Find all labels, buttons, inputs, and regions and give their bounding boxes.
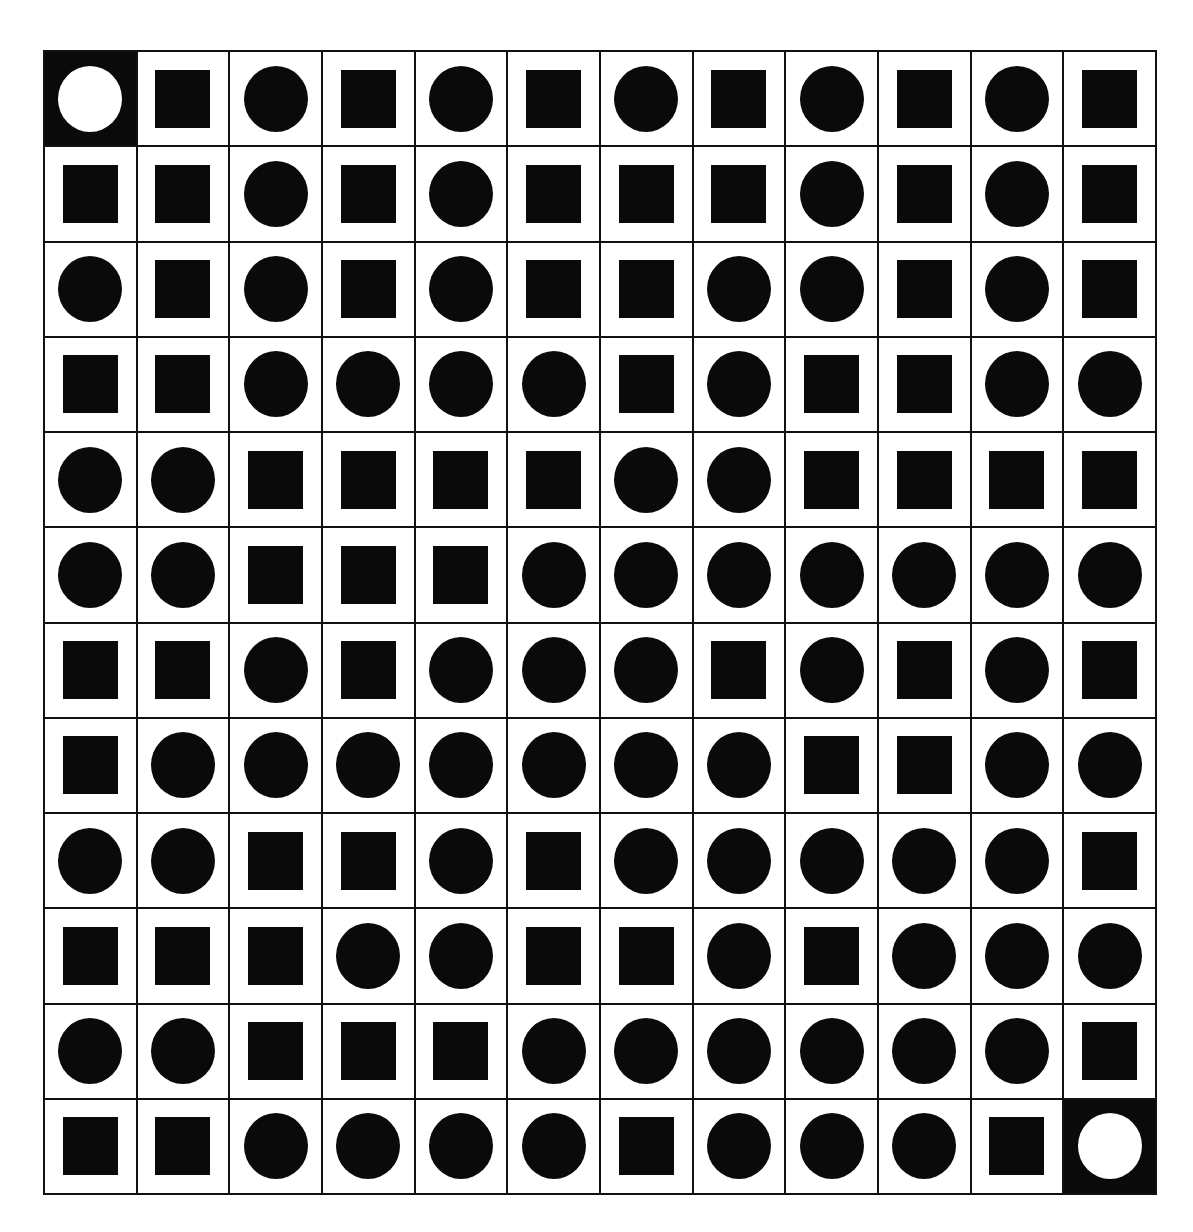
grid-cell[interactable] bbox=[416, 1005, 507, 1098]
grid-cell[interactable] bbox=[879, 243, 970, 336]
grid-cell[interactable] bbox=[508, 624, 599, 717]
grid-cell[interactable] bbox=[416, 52, 507, 145]
grid-cell[interactable] bbox=[138, 624, 229, 717]
grid-cell[interactable] bbox=[601, 719, 692, 812]
grid-cell[interactable] bbox=[601, 338, 692, 431]
grid-cell[interactable] bbox=[972, 338, 1063, 431]
grid-cell[interactable] bbox=[230, 909, 321, 1002]
grid-cell[interactable] bbox=[138, 433, 229, 526]
grid-cell[interactable] bbox=[508, 528, 599, 621]
grid-cell[interactable] bbox=[786, 624, 877, 717]
grid-cell[interactable] bbox=[879, 624, 970, 717]
grid-cell[interactable] bbox=[601, 909, 692, 1002]
grid-cell[interactable] bbox=[230, 814, 321, 907]
grid-cell[interactable] bbox=[416, 338, 507, 431]
grid-cell[interactable] bbox=[879, 433, 970, 526]
grid-cell[interactable] bbox=[694, 624, 785, 717]
grid-cell[interactable] bbox=[416, 624, 507, 717]
grid-cell[interactable] bbox=[879, 719, 970, 812]
grid-cell[interactable] bbox=[138, 528, 229, 621]
grid-cell[interactable] bbox=[508, 814, 599, 907]
grid-cell[interactable] bbox=[230, 243, 321, 336]
grid-cell[interactable] bbox=[138, 909, 229, 1002]
grid-cell[interactable] bbox=[323, 433, 414, 526]
grid-cell[interactable] bbox=[1064, 243, 1155, 336]
grid-cell[interactable] bbox=[972, 528, 1063, 621]
grid-cell[interactable] bbox=[230, 1005, 321, 1098]
grid-cell[interactable] bbox=[879, 52, 970, 145]
grid-cell[interactable] bbox=[230, 528, 321, 621]
grid-cell[interactable] bbox=[1064, 719, 1155, 812]
grid-cell[interactable] bbox=[879, 909, 970, 1002]
grid-cell[interactable] bbox=[508, 147, 599, 240]
grid-cell[interactable] bbox=[786, 433, 877, 526]
grid-cell[interactable] bbox=[230, 624, 321, 717]
grid-cell[interactable] bbox=[786, 52, 877, 145]
grid-cell[interactable] bbox=[323, 909, 414, 1002]
grid-cell[interactable] bbox=[1064, 338, 1155, 431]
grid-cell[interactable] bbox=[416, 909, 507, 1002]
grid-cell[interactable] bbox=[879, 147, 970, 240]
grid-cell[interactable] bbox=[138, 243, 229, 336]
grid-cell[interactable] bbox=[416, 1100, 507, 1193]
grid-cell[interactable] bbox=[323, 528, 414, 621]
grid-cell[interactable] bbox=[45, 814, 136, 907]
grid-cell[interactable] bbox=[786, 1100, 877, 1193]
grid-cell[interactable] bbox=[601, 1100, 692, 1193]
grid-cell[interactable] bbox=[601, 624, 692, 717]
grid-cell[interactable] bbox=[323, 1005, 414, 1098]
grid-cell[interactable] bbox=[230, 719, 321, 812]
grid-cell[interactable] bbox=[879, 528, 970, 621]
grid-cell[interactable] bbox=[323, 1100, 414, 1193]
grid-cell[interactable] bbox=[601, 1005, 692, 1098]
end-cell[interactable] bbox=[1064, 1100, 1155, 1193]
grid-cell[interactable] bbox=[972, 433, 1063, 526]
grid-cell[interactable] bbox=[416, 528, 507, 621]
grid-cell[interactable] bbox=[1064, 909, 1155, 1002]
grid-cell[interactable] bbox=[508, 52, 599, 145]
grid-cell[interactable] bbox=[694, 52, 785, 145]
grid-cell[interactable] bbox=[508, 1100, 599, 1193]
grid-cell[interactable] bbox=[694, 909, 785, 1002]
grid-cell[interactable] bbox=[601, 147, 692, 240]
grid-cell[interactable] bbox=[416, 433, 507, 526]
grid-cell[interactable] bbox=[1064, 624, 1155, 717]
grid-cell[interactable] bbox=[138, 814, 229, 907]
grid-cell[interactable] bbox=[786, 909, 877, 1002]
grid-cell[interactable] bbox=[323, 52, 414, 145]
grid-cell[interactable] bbox=[694, 719, 785, 812]
grid-cell[interactable] bbox=[508, 433, 599, 526]
grid-cell[interactable] bbox=[601, 433, 692, 526]
grid-cell[interactable] bbox=[1064, 52, 1155, 145]
grid-cell[interactable] bbox=[1064, 1005, 1155, 1098]
grid-cell[interactable] bbox=[972, 243, 1063, 336]
grid-cell[interactable] bbox=[972, 52, 1063, 145]
grid-cell[interactable] bbox=[786, 528, 877, 621]
grid-cell[interactable] bbox=[972, 147, 1063, 240]
grid-cell[interactable] bbox=[45, 1005, 136, 1098]
grid-cell[interactable] bbox=[786, 338, 877, 431]
grid-cell[interactable] bbox=[416, 719, 507, 812]
grid-cell[interactable] bbox=[1064, 147, 1155, 240]
grid-cell[interactable] bbox=[230, 147, 321, 240]
grid-cell[interactable] bbox=[601, 52, 692, 145]
grid-cell[interactable] bbox=[972, 909, 1063, 1002]
grid-cell[interactable] bbox=[601, 528, 692, 621]
grid-cell[interactable] bbox=[879, 1005, 970, 1098]
grid-cell[interactable] bbox=[972, 1100, 1063, 1193]
grid-cell[interactable] bbox=[694, 433, 785, 526]
grid-cell[interactable] bbox=[694, 1005, 785, 1098]
grid-cell[interactable] bbox=[416, 147, 507, 240]
grid-cell[interactable] bbox=[508, 1005, 599, 1098]
grid-cell[interactable] bbox=[138, 52, 229, 145]
grid-cell[interactable] bbox=[323, 243, 414, 336]
grid-cell[interactable] bbox=[508, 338, 599, 431]
grid-cell[interactable] bbox=[601, 243, 692, 336]
grid-cell[interactable] bbox=[45, 719, 136, 812]
grid-cell[interactable] bbox=[972, 624, 1063, 717]
grid-cell[interactable] bbox=[230, 338, 321, 431]
grid-cell[interactable] bbox=[45, 243, 136, 336]
grid-cell[interactable] bbox=[694, 147, 785, 240]
grid-cell[interactable] bbox=[323, 147, 414, 240]
grid-cell[interactable] bbox=[694, 338, 785, 431]
